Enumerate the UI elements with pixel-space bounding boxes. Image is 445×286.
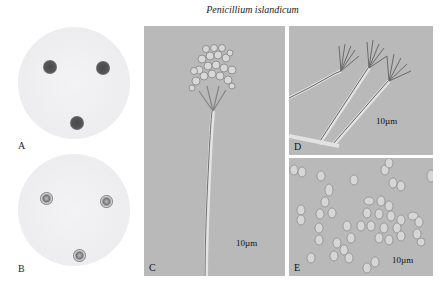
panel-label-a: A (18, 140, 25, 151)
panel-label-c: C (149, 262, 156, 273)
conidiophore-illustration (144, 26, 285, 276)
colony (40, 192, 53, 205)
panel-label-b: B (18, 263, 25, 274)
scale-bar-label-c: 10µm (236, 238, 257, 248)
figure-title: Penicillium islandicum (0, 4, 445, 15)
micrograph-c: 10µm C (144, 26, 285, 276)
scale-bar-label-d: 10µm (376, 116, 397, 126)
culture-plate-b (18, 154, 130, 266)
panel-label-d: D (294, 141, 301, 152)
colony (100, 195, 113, 208)
colony (43, 60, 57, 74)
culture-plate-a (18, 27, 130, 139)
scale-bar-label-e: 10µm (392, 255, 413, 265)
colony (70, 116, 84, 130)
penicilli-illustration (289, 26, 433, 155)
micrograph-d: 10µm D (289, 26, 433, 155)
colony (96, 61, 110, 75)
colony (73, 249, 86, 262)
micrograph-e: 10µm E (289, 158, 433, 276)
panel-label-e: E (294, 262, 300, 273)
